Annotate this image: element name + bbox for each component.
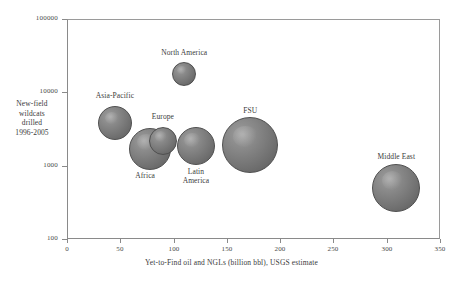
y-axis-title-line-1: New-field [2, 99, 62, 109]
y-tick-label-100: 100 [0, 234, 58, 242]
x-tick-50 [120, 239, 121, 243]
x-tick-label-250: 250 [313, 245, 353, 253]
y-tick-10000 [62, 92, 67, 93]
x-tick-350 [440, 239, 441, 243]
x-tick-0 [67, 239, 68, 243]
bubble-middle-east[interactable] [372, 164, 420, 212]
y-tick-100000 [62, 19, 67, 20]
bubble-chart: 100100010000100000 050100150200250300350… [0, 0, 463, 283]
y-tick-1000 [62, 166, 67, 167]
y-axis-title-line-4: 1996-2005 [2, 128, 62, 138]
bubble-label-asia-pacific: Asia-Pacific [85, 91, 145, 100]
x-tick-label-200: 200 [260, 245, 300, 253]
y-axis-title-line-2: wildcats [2, 109, 62, 119]
x-tick-label-350: 350 [420, 245, 460, 253]
y-tick-label-100000: 100000 [0, 14, 58, 22]
y-tick-label-1000: 1000 [0, 161, 58, 169]
bubble-asia-pacific[interactable] [98, 106, 132, 140]
bubble-latin-america[interactable] [177, 127, 215, 165]
x-tick-label-150: 150 [207, 245, 247, 253]
x-tick-label-300: 300 [367, 245, 407, 253]
bubble-label-europe: Europe [133, 112, 193, 121]
x-tick-100 [174, 239, 175, 243]
x-tick-300 [387, 239, 388, 243]
bubble-north-america[interactable] [172, 62, 196, 86]
bubble-label-middle-east: Middle East [366, 152, 426, 161]
bubble-label-latin-america: Latin America [166, 167, 226, 185]
x-tick-200 [280, 239, 281, 243]
x-tick-label-50: 50 [100, 245, 140, 253]
x-tick-250 [333, 239, 334, 243]
x-tick-label-0: 0 [47, 245, 87, 253]
x-axis-title: Yet-to-Find oil and NGLs (billion bbl), … [0, 258, 463, 267]
y-axis-title-line-3: drilled [2, 118, 62, 128]
x-tick-150 [227, 239, 228, 243]
y-axis-title: New-fieldwildcatsdrilled1996-2005 [2, 99, 62, 137]
bubble-label-north-america: North America [154, 48, 214, 57]
x-tick-label-100: 100 [154, 245, 194, 253]
bubble-europe[interactable] [149, 127, 177, 155]
bubble-label-fsu: FSU [220, 106, 280, 115]
y-tick-label-10000: 10000 [0, 87, 58, 95]
